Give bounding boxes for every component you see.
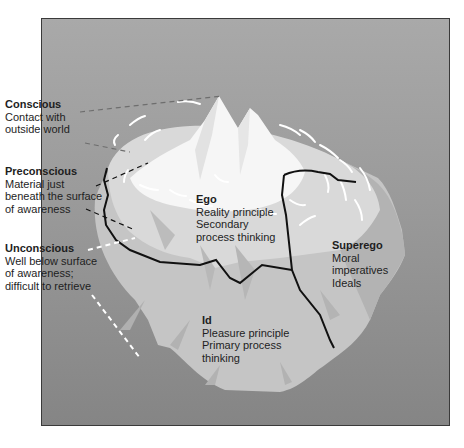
- unconscious-leader-2: [92, 295, 140, 358]
- label-preconscious-line: Material just: [5, 178, 102, 191]
- label-unconscious: Unconscious Well below surface of awaren…: [5, 242, 97, 292]
- label-superego-title: Superego: [332, 239, 388, 252]
- label-conscious-line: outside world: [5, 123, 70, 136]
- label-superego-line: imperatives: [332, 264, 388, 277]
- label-id: Id Pleasure principle Primary process th…: [202, 314, 289, 364]
- label-id-line: Pleasure principle: [202, 327, 289, 340]
- label-unconscious-line: of awareness;: [5, 267, 97, 280]
- label-unconscious-line: difficult to retrieve: [5, 280, 97, 293]
- label-ego-line: Secondary: [196, 218, 276, 231]
- label-preconscious: Preconscious Material just beneath the s…: [5, 165, 102, 215]
- label-id-title: Id: [202, 314, 289, 327]
- label-superego-line: Ideals: [332, 277, 388, 290]
- label-ego-title: Ego: [196, 193, 276, 206]
- label-superego: Superego Moral imperatives Ideals: [332, 239, 388, 289]
- label-id-line: Primary process: [202, 339, 289, 352]
- label-superego-line: Moral: [332, 252, 388, 265]
- label-id-line: thinking: [202, 352, 289, 365]
- label-conscious-line: Contact with: [5, 111, 70, 124]
- label-preconscious-line: of awareness: [5, 203, 102, 216]
- label-preconscious-line: beneath the surface: [5, 190, 102, 203]
- label-unconscious-line: Well below surface: [5, 255, 97, 268]
- label-ego-line: Reality principle: [196, 206, 276, 219]
- label-conscious-title: Conscious: [5, 98, 70, 111]
- facet: [120, 300, 145, 330]
- label-preconscious-title: Preconscious: [5, 165, 102, 178]
- label-conscious: Conscious Contact with outside world: [5, 98, 70, 136]
- label-unconscious-title: Unconscious: [5, 242, 97, 255]
- label-ego-line: process thinking: [196, 231, 276, 244]
- label-ego: Ego Reality principle Secondary process …: [196, 193, 276, 243]
